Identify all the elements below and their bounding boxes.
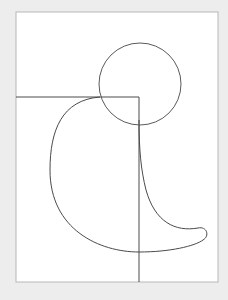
frame-border [16,12,218,282]
line-drawing [0,0,228,300]
diagram-canvas [0,0,228,300]
